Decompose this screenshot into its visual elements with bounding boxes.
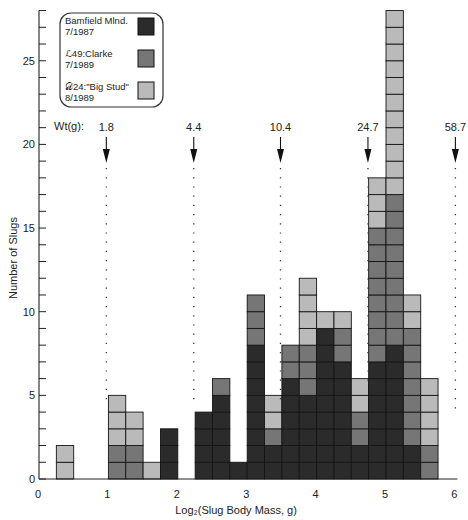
bar-cell-medium xyxy=(421,446,438,463)
y-axis-title: Number of Slugs xyxy=(7,217,19,299)
bar-cell-medium xyxy=(369,312,386,329)
bar-cell-dark xyxy=(195,429,212,446)
bar-cell-dark xyxy=(247,395,264,412)
bar-cell-dark xyxy=(247,362,264,379)
bar-cell-dark xyxy=(386,429,403,446)
bar-cell-dark xyxy=(282,412,299,429)
bar-cell-medium xyxy=(386,262,403,279)
bar-cell-light xyxy=(317,312,334,329)
histogram-bar xyxy=(195,412,212,479)
bar-cell-medium xyxy=(386,195,403,212)
bar-cell-dark xyxy=(369,429,386,446)
bar-cell-light xyxy=(386,61,403,78)
arrow-down-icon xyxy=(103,149,110,163)
bar-cell-dark xyxy=(213,429,230,446)
histogram-bar xyxy=(247,295,264,479)
bar-cell-medium xyxy=(351,412,368,429)
histogram-bar xyxy=(282,345,299,479)
bar-cell-dark xyxy=(334,395,351,412)
bar-cell-medium xyxy=(403,328,420,345)
bar-cell-dark xyxy=(265,446,282,463)
bar-cell-dark xyxy=(369,446,386,463)
bar-cell-light xyxy=(369,195,386,212)
bar-cell-dark xyxy=(247,345,264,362)
y-tick-label: 25 xyxy=(23,55,35,67)
bar-cell-dark xyxy=(386,345,403,362)
weight-label: 10.4 xyxy=(270,121,291,133)
bar-cell-dark xyxy=(299,429,316,446)
legend-entry-title: 𝒟24:"Big Stud" xyxy=(65,81,129,92)
bar-cell-medium xyxy=(403,379,420,396)
histogram-bar xyxy=(143,462,160,479)
legend-entry-title: Bamfield Mlnd. xyxy=(65,15,128,26)
bar-cell-dark xyxy=(369,462,386,479)
bar-cell-medium xyxy=(386,228,403,245)
bar-cell-dark xyxy=(386,462,403,479)
bar-cell-medium xyxy=(265,429,282,446)
bar-cell-medium xyxy=(282,345,299,362)
bar-cell-dark xyxy=(213,446,230,463)
bar-cell-medium xyxy=(369,245,386,262)
legend: Bamfield Mlnd. 7/1987 ℒ49:Clarke 7/1989 … xyxy=(60,13,163,107)
histogram-bar xyxy=(160,429,177,479)
bar-cell-dark xyxy=(213,412,230,429)
bar-cell-light xyxy=(421,412,438,429)
histogram-bar xyxy=(213,379,230,479)
bar-cell-light xyxy=(369,178,386,195)
bar-cell-medium xyxy=(213,379,230,396)
histogram-bar xyxy=(386,11,403,479)
bar-cell-dark xyxy=(334,362,351,379)
bar-cell-light xyxy=(386,111,403,128)
bar-cell-medium xyxy=(403,345,420,362)
bar-cell-light xyxy=(351,379,368,396)
bar-cell-dark xyxy=(213,462,230,479)
x-tick-label: 6 xyxy=(451,488,457,500)
bar-cell-dark xyxy=(317,379,334,396)
bar-cell-medium xyxy=(299,345,316,362)
bar-cell-dark xyxy=(230,462,247,479)
bar-cell-dark xyxy=(282,446,299,463)
x-tick-label: 4 xyxy=(313,488,319,500)
bar-cell-light xyxy=(386,161,403,178)
histogram-bar xyxy=(351,379,368,479)
histogram-bar xyxy=(317,312,334,479)
bar-cell-medium xyxy=(403,429,420,446)
legend-entry-title: ℒ49:Clarke xyxy=(65,48,113,59)
bar-cell-medium xyxy=(386,245,403,262)
bar-cell-medium xyxy=(247,312,264,329)
weight-label: 4.4 xyxy=(186,121,201,133)
bar-cell-dark xyxy=(317,395,334,412)
bar-cell-dark xyxy=(299,395,316,412)
bar-cell-dark xyxy=(403,462,420,479)
legend-swatch-light xyxy=(138,82,154,99)
bar-cell-light xyxy=(421,429,438,446)
bar-cell-light xyxy=(265,395,282,412)
bar-cell-medium xyxy=(403,362,420,379)
bar-cell-light xyxy=(386,178,403,195)
bar-cell-dark xyxy=(369,379,386,396)
x-tick-label: 1 xyxy=(104,488,110,500)
bar-cell-light xyxy=(386,27,403,44)
bar-cell-light xyxy=(108,429,125,446)
bar-cell-light xyxy=(386,77,403,94)
arrow-down-icon xyxy=(277,149,284,163)
bar-cell-medium xyxy=(386,312,403,329)
bar-cell-light xyxy=(403,295,420,312)
bar-cell-light xyxy=(299,278,316,295)
bar-cell-light xyxy=(421,379,438,396)
bar-cell-dark xyxy=(334,429,351,446)
bar-cell-light xyxy=(299,295,316,312)
bar-cell-dark xyxy=(282,462,299,479)
bar-cell-dark xyxy=(317,362,334,379)
bar-cell-light xyxy=(351,395,368,412)
bar-cell-dark xyxy=(317,345,334,362)
bar-cell-light xyxy=(108,395,125,412)
x-tick-label: 2 xyxy=(174,488,180,500)
bar-cell-dark xyxy=(317,446,334,463)
bar-cell-dark xyxy=(299,412,316,429)
x-axis-title: Log₂(Slug Body Mass, g) xyxy=(175,504,297,516)
bar-cell-medium xyxy=(369,262,386,279)
bar-cell-dark xyxy=(299,462,316,479)
bar-cell-dark xyxy=(403,446,420,463)
weight-annotation-label: Wt(g): xyxy=(54,120,84,132)
